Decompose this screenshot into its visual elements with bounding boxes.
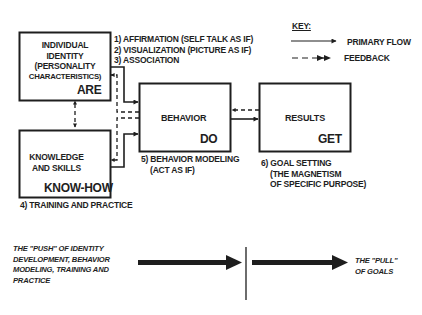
- pull-line: THE "PULL": [355, 256, 397, 267]
- behavior-title: BEHAVIOR: [161, 113, 206, 124]
- pull-line: OF GOALS: [355, 267, 397, 278]
- push-line: THE "PUSH" OF IDENTITY: [13, 244, 110, 255]
- pull-arrow: [252, 255, 348, 270]
- key-title: KEY:: [292, 21, 311, 32]
- push-line: DEVELOPMENT, BEHAVIOR: [13, 255, 110, 266]
- results-method: 6) GOAL SETTING (THE MAGNETISM OF SPECIF…: [261, 158, 366, 190]
- identity-title-line: CHARACTERISTICS): [19, 72, 111, 83]
- pull-description: THE "PULL" OF GOALS: [355, 256, 397, 277]
- behavior-method: 5) BEHAVIOR MODELING (ACT AS IF): [141, 154, 239, 175]
- identity-methods-list: 1) AFFIRMATION (SELF TALK AS IF) 2) VISU…: [114, 34, 253, 66]
- identity-method-visualization: 2) VISUALIZATION (PICTURE AS IF): [114, 45, 253, 56]
- results-method-line: 6) GOAL SETTING: [261, 158, 366, 169]
- results-method-line: (THE MAGNETISM: [261, 169, 366, 180]
- behavior-to-knowledge-feedback-arrow: [111, 118, 139, 160]
- push-description: THE "PUSH" OF IDENTITY DEVELOPMENT, BEHA…: [13, 244, 110, 286]
- knowledge-title-line: KNOWLEDGE: [19, 152, 94, 163]
- identity-title-line: IDENTITY: [19, 51, 111, 62]
- results-verb: GET: [318, 133, 342, 146]
- identity-title-line: (PERSONALITY: [19, 61, 111, 72]
- push-line: PRACTICE: [13, 276, 110, 287]
- knowledge-verb: KNOW-HOW: [44, 182, 113, 195]
- key-feedback-label: FEEDBACK: [344, 53, 390, 64]
- knowledge-to-behavior-arrow: [110, 134, 138, 167]
- identity-title-line: INDIVIDUAL: [19, 40, 111, 51]
- behavior-verb: DO: [200, 133, 217, 146]
- identity-method-affirmation: 1) AFFIRMATION (SELF TALK AS IF): [114, 34, 253, 45]
- key-primary-flow-label: PRIMARY FLOW: [347, 37, 411, 48]
- results-method-line: OF SPECIFIC PURPOSE): [261, 179, 366, 190]
- identity-method-association: 3) ASSOCIATION: [114, 55, 253, 66]
- identity-verb: ARE: [77, 84, 101, 97]
- push-arrow: [138, 255, 242, 270]
- identity-box-title: INDIVIDUAL IDENTITY (PERSONALITY CHARACT…: [19, 40, 111, 82]
- knowledge-title-line: AND SKILLS: [19, 163, 94, 174]
- knowledge-box-title: KNOWLEDGE AND SKILLS: [19, 152, 94, 173]
- results-title: RESULTS: [285, 113, 325, 124]
- behavior-method-line: 5) BEHAVIOR MODELING: [141, 154, 239, 165]
- behavior-method-line: (ACT AS IF): [141, 165, 239, 176]
- push-line: MODELING, TRAINING AND: [13, 265, 110, 276]
- behavior-to-identity-feedback-arrow: [111, 75, 139, 112]
- knowledge-method: 4) TRAINING AND PRACTICE: [20, 200, 132, 211]
- identity-to-behavior-arrow: [110, 67, 138, 102]
